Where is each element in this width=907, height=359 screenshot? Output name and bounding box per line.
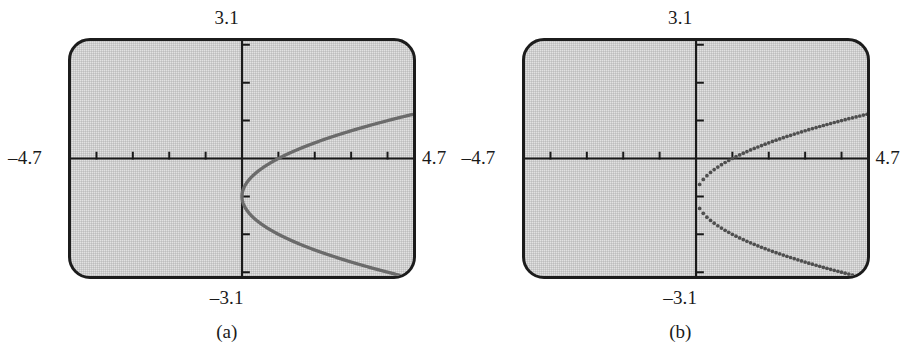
plot-dot (792, 257, 796, 261)
plot-dot (814, 263, 818, 267)
figure-container: 3.1 –4.7 4.7 –3.1 (a) 3.1 –4.7 4.7 –3.1 … (0, 0, 907, 359)
plot-dot (821, 124, 825, 128)
plot-dot (832, 121, 836, 125)
plot-dot (741, 151, 745, 155)
calculator-screen-b (522, 38, 870, 279)
panel-caption-b: (b) (454, 322, 907, 341)
plot-dot (828, 122, 832, 126)
plot-dot (821, 265, 825, 269)
plot-dot (763, 247, 767, 251)
plot-dot (719, 226, 723, 230)
panel-a: 3.1 –4.7 4.7 –3.1 (a) (0, 0, 454, 359)
plot-dot (817, 125, 821, 129)
plot-dot (854, 115, 858, 119)
plot-dot (726, 231, 730, 235)
plot-dot (781, 136, 785, 140)
plot-dot (763, 142, 767, 146)
plot-dot (723, 161, 727, 165)
plot-dot (748, 241, 752, 245)
plot-dot (843, 118, 847, 122)
plot-dot (712, 168, 716, 172)
plot-dot (836, 269, 840, 273)
plot-dot (854, 274, 858, 276)
plot-dot (755, 244, 759, 248)
graph-plot-b (525, 41, 867, 276)
plot-dot (705, 174, 709, 178)
plot-dot (810, 262, 814, 266)
plot-dot (734, 155, 738, 159)
plot-dot (788, 256, 792, 260)
plot-dot (799, 259, 803, 263)
plot-dot (850, 273, 854, 276)
graph-plot-a (71, 41, 413, 276)
plot-dot (697, 207, 701, 211)
plot-dot (817, 264, 821, 268)
plot-dot (846, 117, 850, 121)
plot-dot (814, 126, 818, 130)
plot-dot (781, 253, 785, 257)
plot-dot (737, 153, 741, 157)
plot-dot (708, 171, 712, 175)
plot-dot (865, 112, 867, 116)
plot-dot (734, 234, 738, 238)
plot-dot (741, 238, 745, 242)
plot-dot (737, 236, 741, 240)
parabola-dots (697, 112, 866, 276)
plot-dot (803, 260, 807, 264)
plot-dot (839, 119, 843, 123)
plot-dot (825, 123, 829, 127)
plot-dot (825, 266, 829, 270)
plot-dot (806, 261, 810, 265)
plot-dot (712, 221, 716, 225)
panel-b: 3.1 –4.7 4.7 –3.1 (b) (454, 0, 907, 359)
panel-caption-a: (a) (0, 322, 454, 341)
plot-dot (799, 130, 803, 134)
plot-dot (861, 113, 865, 117)
plot-dot (759, 144, 763, 148)
plot-dot (748, 148, 752, 152)
plot-dot (828, 267, 832, 271)
xmax-label-b: 4.7 (876, 148, 900, 167)
plot-dot (719, 163, 723, 167)
plot-dot (777, 137, 781, 141)
plot-dot (755, 145, 759, 149)
plot-dot (701, 211, 705, 215)
ymax-label-a: 3.1 (0, 8, 454, 27)
plot-dot (759, 245, 763, 249)
ymin-label-b: –3.1 (454, 288, 907, 307)
calculator-screen-a (68, 38, 416, 279)
plot-dot (730, 157, 734, 161)
plot-dot (806, 128, 810, 132)
plot-dot (745, 150, 749, 154)
plot-dot (752, 147, 756, 151)
plot-dot (770, 140, 774, 144)
plot-dot (770, 249, 774, 253)
plot-dot (726, 159, 730, 163)
plot-dot (697, 183, 701, 187)
plot-dot (766, 141, 770, 145)
plot-dot (745, 239, 749, 243)
xmin-label-a: –4.7 (8, 148, 42, 167)
plot-dot (857, 114, 861, 118)
parabola-curve (242, 115, 412, 276)
plot-dot (766, 248, 770, 252)
plot-dot (774, 138, 778, 142)
plot-dot (715, 165, 719, 169)
plot-dot (839, 270, 843, 274)
plot-dot (708, 219, 712, 223)
xmin-label-b: –4.7 (462, 148, 496, 167)
plot-dot (788, 133, 792, 137)
plot-dot (705, 215, 709, 219)
plot-dot (803, 129, 807, 133)
plot-dot (752, 242, 756, 246)
plot-dot (843, 271, 847, 275)
plot-dot (730, 232, 734, 236)
plot-dot (850, 116, 854, 120)
plot-dot (723, 228, 727, 232)
plot-dot (792, 132, 796, 136)
plot-dot (796, 131, 800, 135)
plot-dot (832, 268, 836, 272)
plot-dot (846, 272, 850, 276)
plot-dot (810, 127, 814, 131)
plot-dot (785, 254, 789, 258)
